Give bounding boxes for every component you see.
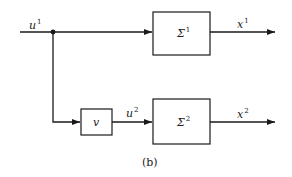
branch-line [53, 32, 80, 122]
label-u1: u1 [29, 18, 42, 32]
label-sigma1: Σ1 [176, 26, 190, 40]
label-v: v [93, 116, 100, 129]
block-diagram: u1 Σ1 x1 v u2 Σ2 x2 (b) [0, 0, 292, 177]
label-sigma2: Σ2 [176, 115, 190, 129]
label-x1: x1 [237, 17, 249, 31]
label-x2: x2 [237, 107, 249, 121]
caption: (b) [142, 156, 158, 169]
label-u2: u2 [126, 106, 139, 120]
